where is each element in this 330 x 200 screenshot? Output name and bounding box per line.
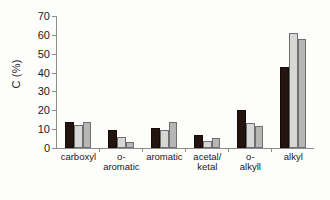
bar [280,67,289,148]
y-axis-title: C (%) [10,44,22,104]
bar-group: o-alkyll [237,16,263,148]
bar [65,122,74,149]
bar-group: alkyl [280,16,306,148]
x-axis-tick [99,148,100,152]
bar-group-bars [194,16,220,148]
y-axis-tick [52,110,56,111]
y-axis-tick [52,73,56,74]
bar-group: o-aromatic [108,16,134,148]
y-axis-tick-label: 0 [44,142,50,154]
bar-group: acetal/ ketal [194,16,220,148]
y-axis-tick-label: 40 [38,67,50,79]
bar [298,39,307,148]
y-axis-tick-label: 20 [38,104,50,116]
bar-group-bars [237,16,263,148]
y-axis-tick [52,148,56,149]
bar [212,138,221,148]
x-axis-tick [271,148,272,152]
x-axis-category-label: alkyl [284,152,303,162]
bar [169,122,178,149]
bar-chart-figure: C (%) 010203040506070 carboxylo-aromatic… [0,0,330,200]
x-axis-category-label: aromatic [146,152,182,162]
y-axis-tick [52,16,56,17]
y-axis-tick [52,91,56,92]
x-axis-category-label: acetal/ ketal [193,152,221,172]
bar [194,135,203,148]
bar-group-bars [108,16,134,148]
y-axis-tick [52,35,56,36]
bar [83,122,92,149]
bar [126,142,135,148]
bar-group: aromatic [151,16,177,148]
y-axis-tick [52,54,56,55]
y-axis-line [56,16,57,148]
x-axis-category-label: o-aromatic [103,152,139,172]
x-axis-tick [228,148,229,152]
bar-group-bars [280,16,306,148]
bar [108,130,117,148]
y-axis-tick-label: 30 [38,85,50,97]
bar [151,128,160,148]
y-axis-tick-label: 10 [38,123,50,135]
bar [255,126,264,148]
bar-group-bars [151,16,177,148]
plot-area: 010203040506070 carboxylo-aromaticaromat… [56,16,314,148]
x-axis-category-label: carboxyl [61,152,96,162]
y-axis-tick [52,129,56,130]
bar [246,123,255,148]
bar [74,125,83,148]
x-axis-tick [185,148,186,152]
bar-group-bars [65,16,91,148]
y-axis-tick-label: 60 [38,29,50,41]
y-axis-tick-label: 50 [38,48,50,60]
y-axis-tick-label: 70 [38,10,50,22]
bar [117,137,126,148]
bar [160,130,169,148]
x-axis-tick [142,148,143,152]
bar [237,110,246,148]
bar [289,33,298,148]
x-axis-category-label: o-alkyll [240,152,261,172]
bar [203,141,212,148]
bar-group: carboxyl [65,16,91,148]
